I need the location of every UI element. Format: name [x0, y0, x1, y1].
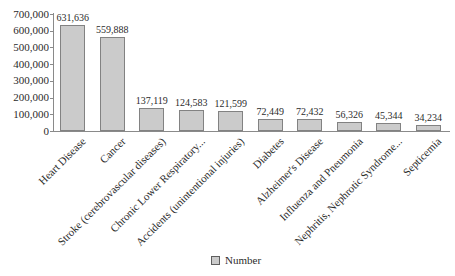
x-axis-label: Septicemia [401, 135, 444, 178]
bar [297, 119, 322, 131]
x-axis-label: Cancer [97, 135, 128, 166]
bar-chart: 0100,000200,000300,000400,000500,000600,… [0, 0, 455, 276]
y-axis-tick-mark [50, 131, 53, 132]
bar [337, 122, 362, 131]
bar-value-label: 137,119 [136, 95, 168, 106]
bar [60, 25, 85, 131]
bar [218, 111, 243, 131]
bar-value-label: 121,599 [215, 98, 248, 109]
y-axis-tick-label: 700,000 [0, 9, 49, 20]
y-axis-tick-label: 100,000 [0, 109, 49, 120]
y-axis-tick-mark [50, 47, 53, 48]
bar [139, 108, 164, 131]
bar-value-label: 45,344 [375, 110, 403, 121]
y-axis-tick-mark [50, 64, 53, 65]
bar [179, 110, 204, 131]
y-axis-tick-mark [50, 14, 53, 15]
bar [376, 123, 401, 131]
legend: Number [211, 254, 261, 266]
bar [100, 37, 125, 131]
bar-value-label: 72,432 [296, 106, 324, 117]
bar-value-label: 56,326 [336, 109, 364, 120]
y-axis-line [53, 13, 54, 132]
x-axis-label: Diabetes [250, 135, 286, 171]
y-axis-tick-mark [50, 98, 53, 99]
bar-value-label: 34,234 [415, 112, 443, 123]
y-axis-tick-mark [50, 81, 53, 82]
x-axis-line [53, 131, 450, 132]
bar-value-label: 72,449 [257, 106, 285, 117]
y-axis-tick-label: 500,000 [0, 42, 49, 53]
y-axis-tick-mark [50, 114, 53, 115]
y-axis-tick-label: 400,000 [0, 59, 49, 70]
bar [416, 125, 441, 131]
bar-value-label: 559,888 [96, 24, 129, 35]
bar [258, 119, 283, 131]
y-axis-tick-label: 0 [0, 126, 49, 137]
x-axis-label: Heart Disease [36, 135, 88, 187]
legend-label: Number [225, 254, 261, 266]
y-axis-tick-mark [50, 31, 53, 32]
bar-value-label: 631,636 [57, 12, 90, 23]
legend-swatch-icon [211, 256, 220, 265]
y-axis-tick-label: 300,000 [0, 75, 49, 86]
y-axis-tick-label: 600,000 [0, 25, 49, 36]
y-axis-tick-label: 200,000 [0, 92, 49, 103]
bar-value-label: 124,583 [175, 97, 208, 108]
x-axis-label: Alzheimer's Disease [253, 135, 325, 207]
